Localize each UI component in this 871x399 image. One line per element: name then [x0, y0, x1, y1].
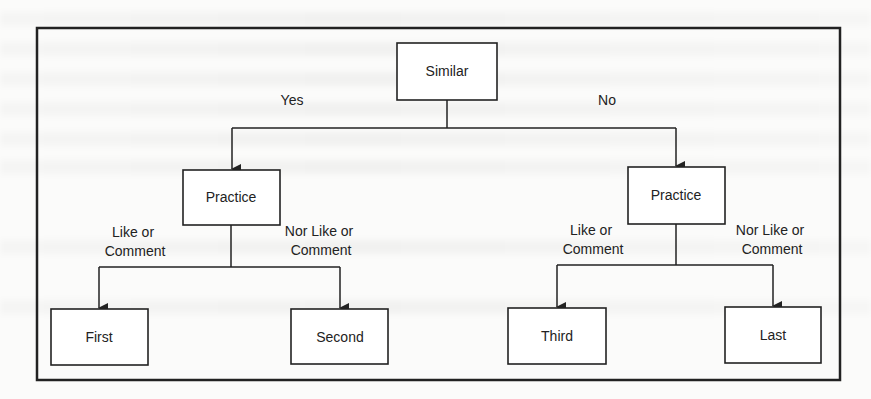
edge-label-left-like: Like or Comment: [105, 224, 166, 259]
leaf-third: Third: [508, 308, 606, 364]
edge-label-right-nor-like: Nor Like or Comment: [736, 222, 808, 257]
leaf-third-label: Third: [541, 328, 573, 344]
node-practice-right-label: Practice: [651, 187, 702, 203]
edge-label-yes: Yes: [281, 92, 304, 108]
edge-label-right-like: Like or Comment: [563, 222, 624, 257]
leaf-first-label: First: [85, 329, 112, 345]
leaf-second-label: Second: [316, 329, 363, 345]
node-practice-right: Practice: [628, 167, 725, 224]
leaf-second: Second: [291, 309, 388, 364]
decision-tree-diagram: Similar Yes No Practice Practice Like or…: [0, 0, 871, 399]
leaf-last: Last: [725, 307, 821, 363]
node-root-label: Similar: [426, 63, 469, 79]
root-connectors: [232, 100, 676, 169]
leaf-first: First: [51, 309, 148, 365]
node-practice-left-label: Practice: [206, 189, 257, 205]
leaf-last-label: Last: [760, 327, 787, 343]
edge-label-left-nor-like: Nor Like or Comment: [285, 223, 357, 258]
node-root: Similar: [397, 43, 497, 100]
node-practice-left: Practice: [183, 170, 280, 225]
edge-label-no: No: [598, 92, 616, 108]
